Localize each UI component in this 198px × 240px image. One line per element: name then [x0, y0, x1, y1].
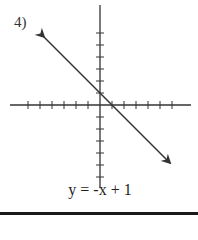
bottom-divider	[0, 212, 198, 215]
line-y-equals-neg-x-plus-1	[44, 37, 170, 163]
equation-caption: y = -x + 1	[0, 181, 198, 199]
